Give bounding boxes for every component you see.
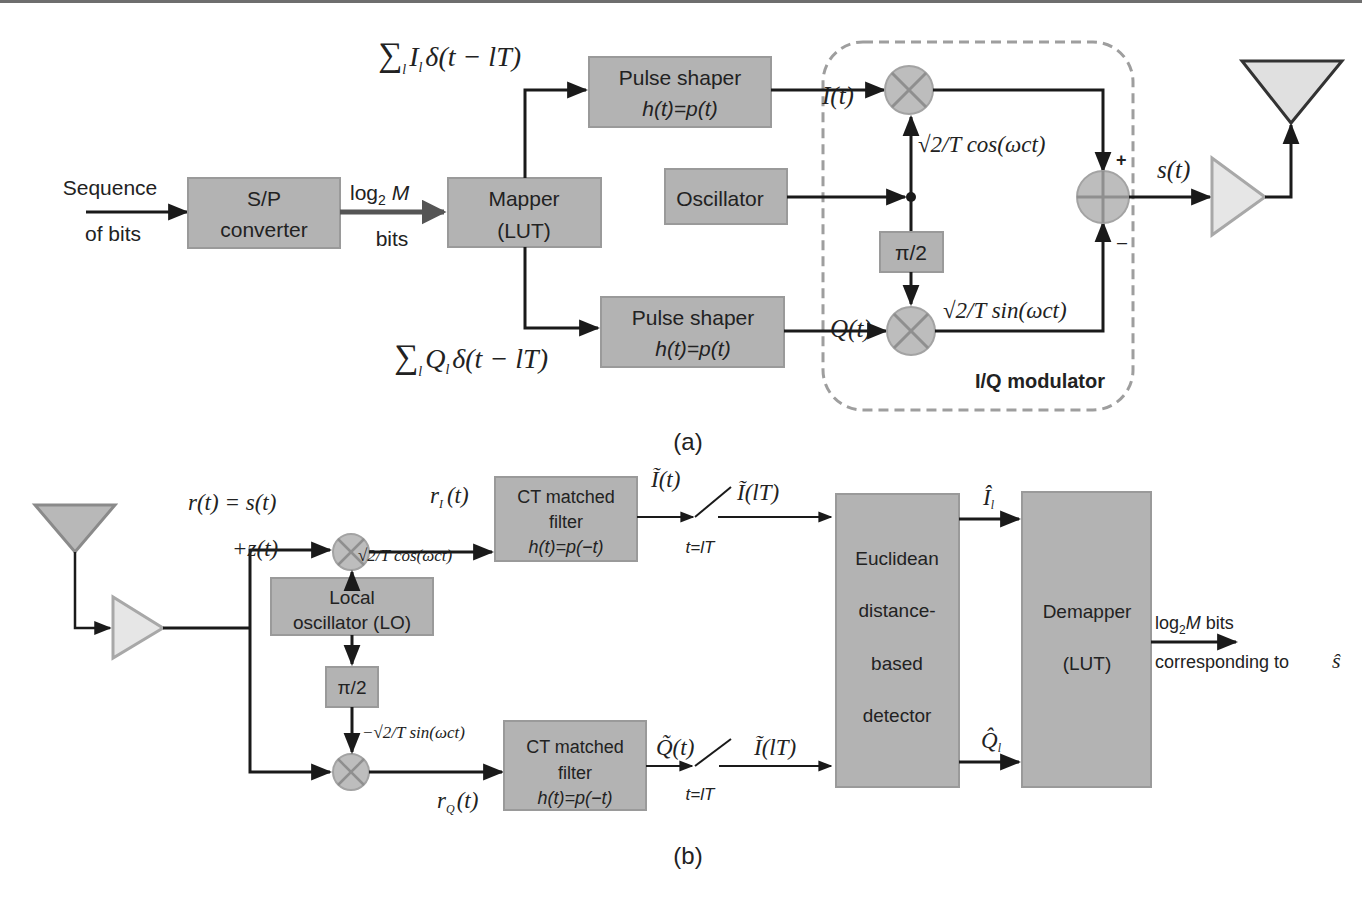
caption-b: (b) [673,842,702,869]
mf-bottom-line3: h(t)=p(−t) [537,788,612,808]
oscillator-label: Oscillator [676,187,764,210]
pulse-shaper-top-block: Pulse shaper h(t)=p(t) [589,57,771,127]
detector-line1: Euclidean [855,548,938,569]
mixer-top-icon [885,66,933,114]
block-diagram: Sequence of bits S/P converter log2 M bi… [0,0,1362,901]
I-hat-label: Îl [982,485,995,512]
mapper-to-pulse-bottom-arrow [525,247,598,328]
sampler-switch-bottom-icon [695,739,731,766]
sp-converter-block: S/P converter [188,178,340,248]
demapper-block: Demapper (LUT) [1022,492,1151,787]
local-oscillator-line1: Local [329,587,374,608]
antenna-to-amp-arrow [75,552,110,628]
sampler-switch-top-icon [695,487,731,517]
sp-converter-line2: converter [220,218,308,241]
rI-t-label: rI(t) [430,483,469,511]
I-tilde-t-label: Ĩ(t) [650,467,680,492]
mf-top-line3: h(t)=p(−t) [528,537,603,557]
log-label: log2 M [350,181,410,208]
oscillator-block: Oscillator [665,169,787,224]
caption-a: (a) [673,428,702,455]
mixer-top-to-summer-arrow [933,90,1103,171]
output-bits-label: log2M bits [1155,613,1234,637]
local-oscillator-line2: oscillator (LO) [293,612,411,633]
input-label-of-bits: of bits [85,222,141,245]
sample-time-top-label: t=lT [686,538,716,557]
iq-modulator-boundary [823,42,1133,410]
detector-line2: distance- [858,600,935,621]
mixer-bottom-icon [887,307,935,355]
mf-top-line1: CT matched [517,487,615,507]
summer-icon [1077,171,1129,223]
local-oscillator-block: Local oscillator (LO) [271,578,433,635]
phase-shift-block-tx: π/2 [880,232,943,272]
detector-line4: detector [863,705,932,726]
cos-label-tx: √2/T cos(ωct) [918,132,1045,157]
phase-shift-label-rx: π/2 [338,677,367,698]
matched-filter-top-block: CT matched filter h(t)=p(−t) [495,477,637,561]
minus-sign: – [1117,232,1127,252]
sample-time-bottom-label: t=lT [686,785,716,804]
mf-bottom-line2: filter [558,763,592,783]
demapper-line2: (LUT) [1063,653,1112,674]
rx-antenna-icon [35,505,115,552]
receiver-diagram: r(t) = s(t) +z(t) Local oscillator (LO) … [35,467,1341,869]
pulse-shaper-bottom-block: Pulse shaper h(t)=p(t) [601,297,784,367]
I-tilde-lT-bottom-label: Ĩ(lT) [753,735,796,760]
detector-line3: based [871,653,923,674]
mapper-to-pulse-top-arrow [525,90,586,178]
tx-antenna-icon [1242,61,1342,123]
iq-modulator-label: I/Q modulator [975,370,1105,392]
mf-top-line2: filter [549,512,583,532]
s-t-label: s(t) [1157,156,1190,184]
phase-shift-label-tx: π/2 [895,241,927,264]
bits-label: bits [376,227,409,250]
pulse-shaper-bottom-line2: h(t)=p(t) [655,337,730,360]
I-tilde-lT-top-label: Ĩ(lT) [736,480,779,505]
sp-converter-line1: S/P [247,187,281,210]
I-t-label: I(t) [821,82,854,110]
phase-shift-block-rx: π/2 [326,667,378,707]
diagram-svg: Sequence of bits S/P converter log2 M bi… [0,0,1362,901]
matched-filter-bottom-block: CT matched filter h(t)=p(−t) [504,721,646,810]
pulse-shaper-top-line2: h(t)=p(t) [642,97,717,120]
sum-Q-label: ∑lQlδ(t − lT) [394,338,548,379]
pulse-shaper-bottom-line1: Pulse shaper [632,306,755,329]
sin-label-tx: √2/T sin(ωct) [943,298,1067,323]
demapper-line1: Demapper [1043,601,1132,622]
rx-neg-sin-label: −√2/T sin(ωct) [362,723,465,742]
rx-mixer-bottom-icon [333,754,369,790]
mapper-line1: Mapper [488,187,559,210]
tx-amplifier-icon [1212,158,1265,235]
input-label-sequence: Sequence [63,176,158,199]
z-t-label: +z(t) [232,536,278,561]
rx-cos-label: √2/T cos(ωct) [358,546,453,565]
amp-to-antenna-arrow [1265,125,1291,197]
mapper-block: Mapper (LUT) [448,178,601,247]
pulse-shaper-top-line1: Pulse shaper [619,66,742,89]
rx-amplifier-icon [113,597,163,658]
euclidean-detector-block: Euclidean distance- based detector [836,494,959,787]
mf-bottom-line1: CT matched [526,737,624,757]
Q-hat-label: Q̂l [981,727,1002,755]
s-hat-label: ŝ [1332,648,1341,673]
output-corresponding-label: corresponding to [1155,652,1289,672]
transmitter-diagram: Sequence of bits S/P converter log2 M bi… [63,36,1342,455]
rQ-t-label: rQ(t) [437,788,478,816]
mapper-line2: (LUT) [497,219,551,242]
split-to-mixer-bottom-arrow [250,628,330,772]
sum-I-label: ∑lIlδ(t − lT) [378,36,521,77]
r-t-label: r(t) = s(t) [188,490,276,515]
plus-sign: + [1116,150,1127,170]
Q-t-label: Q(t) [830,315,872,343]
Q-tilde-t-label: Q̃(t) [656,734,694,760]
